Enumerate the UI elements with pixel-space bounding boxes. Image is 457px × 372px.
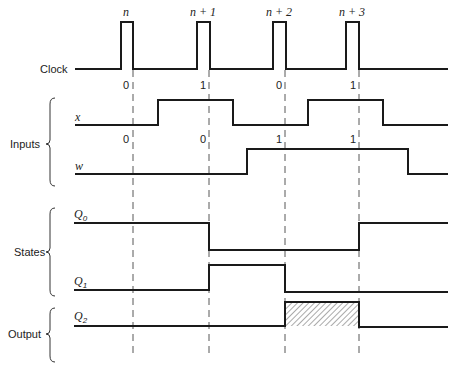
q2-label: Q2 <box>74 309 88 325</box>
output-label: Output <box>8 328 41 340</box>
timing-diagram: Clock n n + 1 n + 2 n + 3 0 1 0 1 Inputs… <box>0 0 457 372</box>
pulse-label-n3: n + 3 <box>339 5 365 19</box>
inputs-brace <box>46 98 55 186</box>
x-value-2: 0 <box>276 79 282 91</box>
q0-label: Q0 <box>74 207 88 223</box>
states-label: States <box>14 246 46 258</box>
w-waveform <box>75 149 448 174</box>
w-value-0: 0 <box>123 133 129 145</box>
pulse-label-n2: n + 2 <box>266 5 292 19</box>
x-value-1: 1 <box>200 79 206 91</box>
pulse-label-n: n <box>123 5 129 19</box>
w-value-2: 1 <box>276 133 282 145</box>
q2-hatched-region <box>285 302 359 326</box>
w-signal-label: w <box>75 159 83 173</box>
x-value-0: 0 <box>123 79 129 91</box>
q1-label: Q1 <box>74 274 87 290</box>
clock-label: Clock <box>40 63 68 75</box>
w-value-1: 0 <box>200 133 206 145</box>
output-brace <box>46 308 55 362</box>
states-brace <box>46 208 55 296</box>
clock-waveform <box>75 22 448 69</box>
inputs-label: Inputs <box>10 138 40 150</box>
x-signal-label: x <box>74 110 81 124</box>
pulse-label-n1: n + 1 <box>190 5 216 19</box>
w-value-3: 1 <box>350 133 356 145</box>
x-waveform <box>75 100 448 125</box>
q0-waveform <box>74 223 448 250</box>
x-value-3: 1 <box>350 79 356 91</box>
q2-waveform <box>74 302 448 327</box>
q1-waveform <box>74 265 448 292</box>
